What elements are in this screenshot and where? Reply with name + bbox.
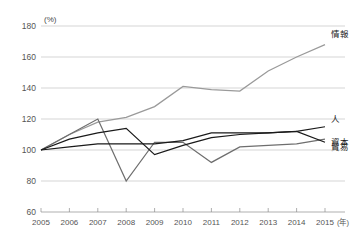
y-tick-label-120: 120 xyxy=(22,114,36,124)
series-label-人: 人 xyxy=(331,114,340,124)
y-tick-label-180: 180 xyxy=(22,21,36,31)
y-tick-label-60: 60 xyxy=(27,207,37,217)
x-tick-label-2011: 2011 xyxy=(203,218,221,227)
x-tick-label-2005: 2005 xyxy=(32,218,50,227)
y-tick-label-160: 160 xyxy=(22,52,36,62)
x-tick-label-2009: 2009 xyxy=(146,218,164,227)
y-tick-label-80: 80 xyxy=(27,176,37,186)
x-tick-label-2015: 2015 xyxy=(316,218,334,227)
x-tick-label-2013: 2013 xyxy=(259,218,277,227)
series-label-貿易: 貿易 xyxy=(331,142,349,152)
series-line-情報 xyxy=(41,45,325,150)
x-tick-label-2006: 2006 xyxy=(61,218,79,227)
series-label-情報: 情報 xyxy=(331,29,349,39)
line-chart-figure: (%)6080100120140160180200520062007200820… xyxy=(0,0,363,238)
chart-canvas: (%)6080100120140160180200520062007200820… xyxy=(0,0,363,238)
x-tick-label-2010: 2010 xyxy=(174,218,192,227)
x-tick-label-2014: 2014 xyxy=(288,218,306,227)
series-line-人 xyxy=(41,127,325,150)
y-axis-unit-label: (%) xyxy=(44,15,57,24)
x-tick-label-2012: 2012 xyxy=(231,218,249,227)
x-tick-label-2008: 2008 xyxy=(117,218,135,227)
series-line-資本 xyxy=(41,128,325,154)
x-tick-label-2007: 2007 xyxy=(89,218,107,227)
y-tick-label-140: 140 xyxy=(22,83,36,93)
x-axis-unit-label: (年) xyxy=(337,217,349,227)
y-tick-label-100: 100 xyxy=(22,145,36,155)
